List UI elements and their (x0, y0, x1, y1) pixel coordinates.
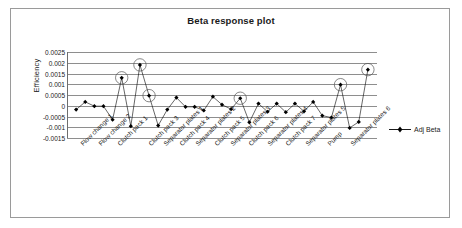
data-point-marker (147, 94, 151, 98)
y-tick-label: 0.001 (49, 81, 65, 88)
chart-title: Beta response plot (11, 15, 451, 26)
legend-marker-icon (389, 125, 411, 134)
data-point-marker (366, 68, 370, 72)
y-tick-label: -0.001 (47, 124, 65, 131)
y-tick-label: 0.0005 (45, 92, 65, 99)
chart-legend: Adj Beta (389, 125, 440, 134)
data-point-marker (120, 76, 124, 80)
y-tick-label: -0.0005 (43, 113, 65, 120)
data-point-marker (101, 104, 105, 108)
data-point-marker (357, 120, 361, 124)
chart-frame: Beta response plot Efficiency 0.00250.00… (10, 8, 450, 218)
y-tick-label: 0.0025 (45, 49, 65, 56)
data-point-marker (92, 104, 96, 108)
data-point-marker (348, 126, 352, 130)
legend-label-adj-beta: Adj Beta (414, 126, 440, 133)
data-point-marker (338, 83, 342, 87)
y-tick-label: 0 (61, 102, 65, 109)
data-point-marker (156, 123, 160, 127)
data-point-marker (320, 114, 324, 118)
data-point-marker (138, 63, 142, 67)
y-tick-label: 0.002 (49, 59, 65, 66)
y-axis-tick-labels: 0.00250.0020.00150.0010.00050-0.0005-0.0… (11, 52, 65, 138)
x-axis-tick-labels: Flow change 1Flow change 2Clutch pack 1C… (11, 138, 451, 216)
y-tick-label: 0.0015 (45, 70, 65, 77)
